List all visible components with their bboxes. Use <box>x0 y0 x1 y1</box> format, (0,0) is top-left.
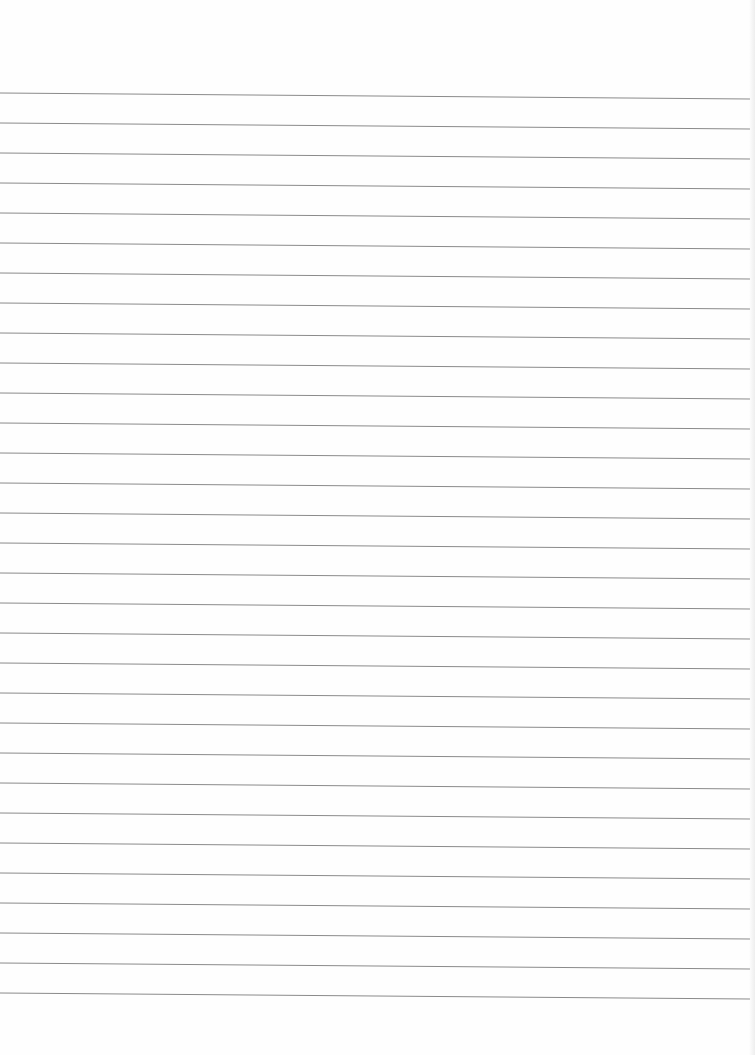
ruled-line <box>0 123 750 129</box>
ruled-line <box>0 903 750 909</box>
lined-paper-sheet <box>0 0 755 1055</box>
paper-edge-shadow <box>749 0 755 1055</box>
ruled-line <box>0 993 750 999</box>
ruled-line <box>0 423 750 429</box>
ruled-line <box>0 243 750 249</box>
ruled-lines <box>0 0 755 1055</box>
ruled-line <box>0 153 750 159</box>
ruled-line <box>0 633 750 639</box>
ruled-line <box>0 513 750 519</box>
ruled-line <box>0 483 750 489</box>
ruled-line <box>0 93 750 99</box>
ruled-line <box>0 753 750 759</box>
ruled-line <box>0 663 750 669</box>
ruled-line <box>0 693 750 699</box>
ruled-line <box>0 273 750 279</box>
ruled-line <box>0 873 750 879</box>
ruled-line <box>0 303 750 309</box>
ruled-line <box>0 933 750 939</box>
ruled-line <box>0 543 750 549</box>
ruled-line <box>0 363 750 369</box>
ruled-line <box>0 213 750 219</box>
ruled-line <box>0 843 750 849</box>
ruled-line <box>0 393 750 399</box>
ruled-line <box>0 603 750 609</box>
ruled-line <box>0 333 750 339</box>
ruled-line <box>0 183 750 189</box>
ruled-line <box>0 723 750 729</box>
ruled-line <box>0 963 750 969</box>
ruled-line <box>0 573 750 579</box>
ruled-line <box>0 453 750 459</box>
ruled-line <box>0 813 750 819</box>
ruled-line <box>0 783 750 789</box>
